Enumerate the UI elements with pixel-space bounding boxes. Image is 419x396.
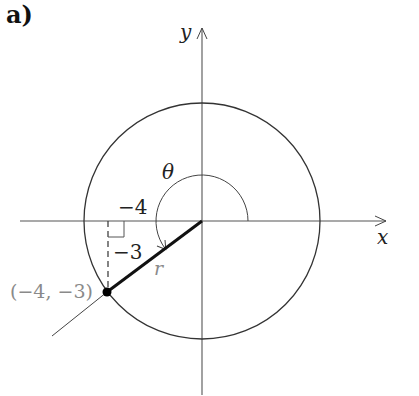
- radius-label: r: [154, 257, 163, 279]
- point-marker: [103, 288, 112, 297]
- right-angle-marker: [108, 221, 124, 237]
- vertical-leg-label: −3: [113, 240, 142, 264]
- y-axis-label: y: [180, 20, 191, 44]
- x-axis-label: x: [377, 225, 388, 249]
- theta-label: θ: [162, 160, 174, 184]
- unit-circle-diagram: [0, 0, 419, 396]
- part-label: a): [6, 0, 33, 29]
- point-label: (−4, −3): [10, 280, 93, 302]
- horizontal-leg-label: −4: [118, 195, 147, 219]
